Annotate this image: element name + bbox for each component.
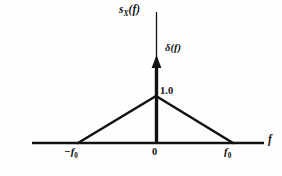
negative-f0-symbol: −f (64, 145, 74, 157)
negative-f0-tick-label: −f0 (64, 146, 78, 160)
psd-figure: sX(f) δ(f) 1.0 0 −f0 f0 f (0, 0, 282, 176)
positive-f0-subscript: 0 (228, 152, 232, 160)
plot-canvas (0, 0, 282, 176)
y-axis-label-argument: (f) (129, 3, 141, 15)
y-axis-label: sX(f) (119, 4, 140, 18)
delta-impulse-arrowhead (152, 55, 162, 68)
peak-value-label: 1.0 (160, 86, 173, 97)
positive-f0-tick-label: f0 (224, 146, 231, 160)
negative-f0-subscript: 0 (74, 152, 78, 160)
x-axis-label: f (268, 134, 272, 146)
spectrum-right-slope (156, 96, 233, 143)
origin-tick-label: 0 (152, 147, 157, 158)
delta-argument: (f) (170, 42, 181, 53)
spectrum-left-slope (78, 96, 156, 143)
delta-function-label: δ(f) (165, 43, 181, 54)
